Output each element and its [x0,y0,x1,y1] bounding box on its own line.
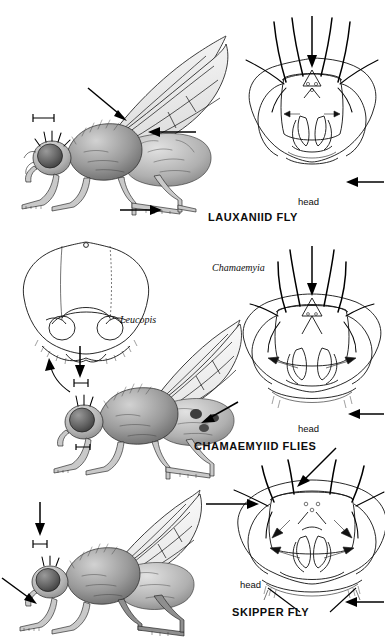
caption-skipper-fly: SKIPPER FLY [232,606,309,618]
pointer-arrow-cheek [346,177,384,187]
skipper-figure [0,460,385,642]
genus-label-leucopis: Leucopis [120,314,156,325]
head-label-chamaemyiid: head [298,423,319,434]
pointer-arrow-cheek-chamaemyia [348,409,384,419]
pointer-arrow-head-callout [45,358,70,392]
pointer-arrow-eye-skipper [206,499,259,509]
pointer-arrow-thorax-skipper [35,502,45,536]
scale-bar-chamaemyiid-upper [74,379,88,387]
skipper-head-diagram [206,448,385,612]
lauxaniid-habitus [22,36,228,215]
leucopis-habitus [54,320,242,479]
panel-skipper-fly: head SKIPPER FLY [0,460,385,642]
chamaemyiid-figure [0,228,385,460]
skipper-habitus [20,490,202,636]
panel-chamaemyiid-flies: Leucopis Chamaemyia head CHAMAEMYIID FLI… [0,228,385,460]
pointer-arrow-ocellar-chamaemyia [307,246,317,296]
panel-lauxaniid-fly: head LAUXANIID FLY [0,0,385,228]
lauxaniid-head-diagram [246,16,384,187]
identification-plate: head LAUXANIID FLY [0,0,385,642]
pointer-arrow-wing-base [88,88,127,121]
head-label-skipper: head [240,579,261,590]
scale-bar-skipper [33,540,47,548]
leucopis-head-diagram [23,242,148,364]
caption-lauxaniid-fly: LAUXANIID FLY [208,211,298,223]
caption-chamaemyiid-flies: CHAMAEMYIID FLIES [194,440,316,452]
genus-label-chamaemyia: Chamaemyia [212,262,265,273]
lauxaniid-figure [0,0,385,228]
head-label-lauxaniid: head [298,196,319,207]
scale-bar-lauxaniid [33,114,54,122]
pointer-arrow-cheek-skipper [345,597,384,607]
pointer-arrow-ocellar [307,16,317,68]
